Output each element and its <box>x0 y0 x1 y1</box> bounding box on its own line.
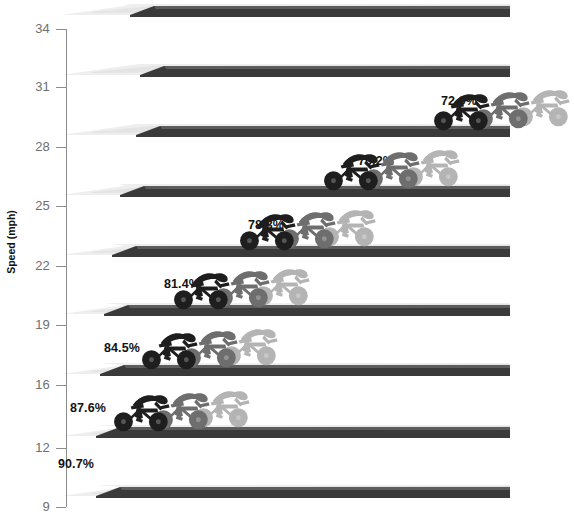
ramp-front-highlight <box>120 487 510 490</box>
drafting-percent-label: 90.7% <box>58 457 94 471</box>
cyclist-silhouette <box>172 269 238 310</box>
y-axis-tick-label: 19 <box>18 318 50 331</box>
cyclist-silhouette <box>112 391 178 432</box>
cyclist-icon <box>172 269 238 310</box>
y-axis-tick-label: 12 <box>18 441 50 454</box>
y-axis-tick-label: 31 <box>18 80 50 93</box>
ramp-platform <box>62 4 510 17</box>
y-axis-tick-label: 25 <box>18 199 50 212</box>
y-axis-tick <box>56 385 66 386</box>
y-axis-line <box>66 29 67 507</box>
y-axis-tick <box>56 87 66 88</box>
y-axis-tick <box>56 266 66 267</box>
y-axis-tick <box>56 448 66 449</box>
drafting-percent-label: 87.6% <box>70 401 106 415</box>
y-axis-tick <box>56 206 66 207</box>
y-axis-tick-label: 22 <box>18 259 50 272</box>
cyclist-icon <box>322 150 388 191</box>
y-axis-tick <box>56 325 66 326</box>
y-axis-tick <box>56 147 66 148</box>
cyclist-icon <box>432 90 498 131</box>
ramp-platform <box>62 363 510 376</box>
ramp-platform <box>62 64 510 77</box>
drafting-percent-label: 84.5% <box>104 341 140 355</box>
cyclist-icon <box>238 210 304 251</box>
cyclist-icon <box>140 329 206 370</box>
cyclist-silhouette <box>238 210 304 251</box>
y-axis-tick-label: 9 <box>18 500 50 513</box>
y-axis-title: Speed (mph) <box>5 207 17 277</box>
ramp-platform <box>62 485 510 498</box>
y-axis-tick <box>56 507 66 508</box>
cyclist-icon <box>112 391 178 432</box>
cyclist-silhouette <box>432 90 498 131</box>
y-axis-tick-label: 28 <box>18 140 50 153</box>
y-axis-tick <box>56 29 66 30</box>
cyclist-silhouette <box>140 329 206 370</box>
ramp-front-highlight <box>164 66 510 69</box>
cyclist-silhouette <box>322 150 388 191</box>
y-axis-tick-label: 16 <box>18 378 50 391</box>
ramp-front-highlight <box>154 6 510 9</box>
y-axis-tick-label: 34 <box>18 22 50 35</box>
